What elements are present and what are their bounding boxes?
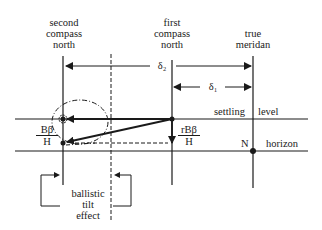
point-second-north	[61, 117, 66, 122]
frac-denominator: H	[36, 136, 58, 147]
horizon-label: horizon	[266, 138, 298, 149]
label-line: meridan	[230, 39, 276, 50]
ballistic-tilt-effect-label: ballistic tilt effect	[64, 188, 112, 221]
delta2-label: δ₂	[152, 60, 172, 71]
right-bracket	[113, 175, 131, 206]
frac-numerator: rBβ	[178, 124, 200, 136]
level-label: level	[258, 106, 278, 117]
settling-label: settling	[214, 106, 245, 117]
true-meridian-label: true meridan	[230, 28, 276, 50]
left-bracket	[41, 175, 60, 206]
label-line: north	[148, 39, 196, 50]
point-lower-left	[61, 141, 66, 146]
label-line: compass	[40, 28, 88, 39]
delta1-label: δ₁	[203, 81, 223, 92]
N-label: N	[241, 138, 249, 149]
label-line: true	[230, 28, 276, 39]
label-line: compass	[148, 28, 196, 39]
frac-numerator: Bβ	[36, 124, 58, 136]
dashdot-connector	[66, 143, 95, 145]
label-line: tilt	[64, 199, 112, 210]
label-line: effect	[64, 210, 112, 221]
label-line: first	[148, 17, 196, 28]
precession-ellipse	[52, 100, 108, 144]
first-compass-north-label: first compass north	[148, 17, 196, 50]
diagonal-arrow	[67, 119, 172, 142]
right-fraction: rBβ H	[178, 124, 200, 147]
label-line: north	[40, 39, 88, 50]
left-fraction: Bβ H	[36, 124, 58, 147]
label-line: ballistic	[64, 188, 112, 199]
second-compass-north-label: second compass north	[40, 17, 88, 50]
label-line: second	[40, 17, 88, 28]
frac-denominator: H	[178, 136, 200, 147]
point-N	[250, 148, 256, 154]
